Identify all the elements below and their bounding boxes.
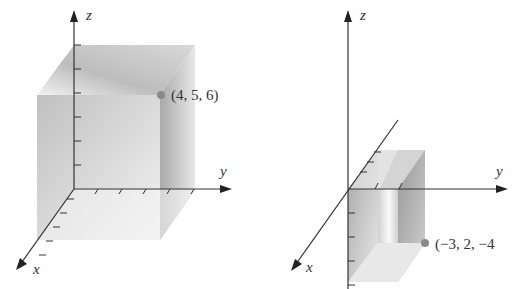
- x-axis-label: x: [305, 259, 313, 275]
- point-label: (4, 5, 6): [171, 87, 219, 104]
- diagram-canvas: z y x (4, 5, 6): [0, 0, 517, 289]
- z-arrow-icon: [344, 10, 352, 22]
- point-label: (−3, 2, −4: [435, 236, 495, 253]
- left-figure: z y x (4, 5, 6): [16, 7, 232, 277]
- y-axis-label: y: [494, 163, 503, 179]
- y-arrow-icon: [496, 185, 508, 193]
- box-inner-column: [380, 189, 398, 244]
- right-figure: z y x (−3, 2, −4: [291, 7, 508, 289]
- z-axis-label: z: [85, 7, 92, 23]
- z-axis-label: z: [359, 7, 366, 23]
- x-arrow-icon: [291, 259, 302, 271]
- x-arrow-icon: [16, 258, 27, 270]
- point-marker: [157, 91, 165, 99]
- z-arrow-icon: [70, 10, 78, 22]
- x-axis-label: x: [32, 261, 40, 277]
- y-axis-label: y: [218, 163, 227, 179]
- point-marker: [421, 239, 429, 247]
- y-arrow-icon: [220, 185, 232, 193]
